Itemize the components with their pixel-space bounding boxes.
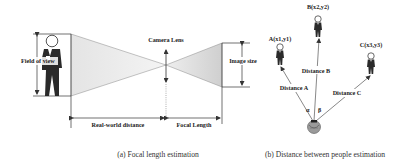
- image-size-label: Image size: [229, 57, 257, 64]
- focal-length-label: Focal Length: [177, 121, 212, 128]
- person-c-label: C(x3,y3): [360, 41, 383, 49]
- caption-b: (b) Distance between people estimation: [265, 150, 385, 159]
- field-of-view-label: Field of view: [21, 57, 55, 64]
- angle-beta-label: β: [318, 106, 322, 113]
- field-of-view-cone: [71, 34, 166, 96]
- person-b-icon: [314, 16, 322, 37]
- person-a-label: A(x1,y1): [269, 35, 292, 43]
- person-a-icon: [276, 44, 284, 65]
- angle-alpha-label: α: [306, 106, 310, 113]
- panel-a-focal-length: Field of view Camera Lens Image size Rea…: [20, 34, 259, 159]
- person-icon: [42, 35, 62, 96]
- distance-c-line: [316, 76, 370, 121]
- diagram-canvas: Field of view Camera Lens Image size Rea…: [0, 0, 400, 167]
- real-world-distance-label: Real-world distance: [92, 121, 145, 128]
- distance-a-label: Distance A: [280, 84, 309, 91]
- camera-icon: [308, 120, 321, 134]
- camera-lens-label: Camera Lens: [148, 36, 184, 43]
- panel-b-distance-between-people: A(x1,y1) B(x2,y2) C(x3,y3) Distance A Di…: [265, 3, 385, 159]
- image-cone: [166, 43, 222, 87]
- distance-c-label: Distance C: [333, 89, 362, 96]
- person-b-label: B(x2,y2): [307, 3, 329, 11]
- distance-b-label: Distance B: [302, 67, 330, 74]
- caption-a: (a) Focal length estimation: [117, 150, 199, 159]
- person-c-icon: [367, 53, 375, 74]
